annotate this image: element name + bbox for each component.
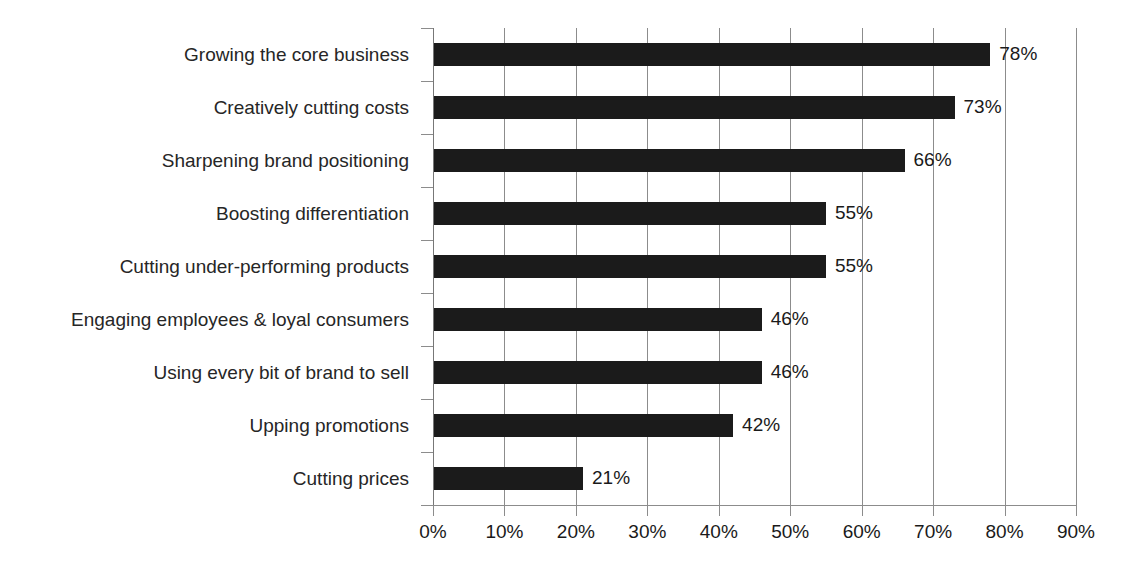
bar-row: 46% xyxy=(433,346,1076,399)
x-axis-tick xyxy=(433,505,434,516)
x-axis-tick-label: 90% xyxy=(1057,519,1095,545)
x-axis-tick xyxy=(504,505,505,516)
bar-value-label: 73% xyxy=(964,93,1002,121)
category-label: Using every bit of brand to sell xyxy=(153,346,421,399)
x-axis-tick-label: 0% xyxy=(419,519,446,545)
bar-value-label: 66% xyxy=(914,146,952,174)
bar-value-label: 21% xyxy=(592,464,630,492)
bar xyxy=(433,43,990,66)
x-axis-tick xyxy=(576,505,577,516)
bar-value-label: 55% xyxy=(835,252,873,280)
bar-value-label: 42% xyxy=(742,411,780,439)
bar-row: 66% xyxy=(433,134,1076,187)
category-label: Engaging employees & loyal consumers xyxy=(71,293,421,346)
bar-row: 55% xyxy=(433,187,1076,240)
x-axis-tick xyxy=(647,505,648,516)
category-axis-labels: Growing the core businessCreatively cutt… xyxy=(0,28,421,505)
y-axis-tick xyxy=(421,240,433,241)
y-axis-tick xyxy=(421,346,433,347)
y-axis-tick xyxy=(421,134,433,135)
bar-row: 42% xyxy=(433,399,1076,452)
x-axis-tick xyxy=(790,505,791,516)
bar-value-label: 55% xyxy=(835,199,873,227)
y-axis-tick xyxy=(421,293,433,294)
x-axis-tick-label: 80% xyxy=(986,519,1024,545)
x-axis-tick xyxy=(933,505,934,516)
bar xyxy=(433,96,955,119)
bar xyxy=(433,202,826,225)
x-axis-tick-label: 10% xyxy=(485,519,523,545)
gridline-90 xyxy=(1076,28,1077,505)
y-axis-tick xyxy=(421,28,433,29)
category-label: Cutting prices xyxy=(293,452,421,505)
bar-value-label: 46% xyxy=(771,358,809,386)
category-label: Cutting under-performing products xyxy=(120,240,421,293)
y-axis-line xyxy=(433,28,434,505)
x-axis-tick xyxy=(1076,505,1077,516)
bar-row: 78% xyxy=(433,28,1076,81)
y-axis-tick xyxy=(421,399,433,400)
bar-value-label: 78% xyxy=(999,40,1037,68)
bar xyxy=(433,414,733,437)
category-label: Upping promotions xyxy=(250,399,421,452)
x-axis-tick-label: 30% xyxy=(628,519,666,545)
y-axis-tick xyxy=(421,187,433,188)
bar-row: 21% xyxy=(433,452,1076,505)
category-label: Boosting differentiation xyxy=(216,187,421,240)
bar-value-label: 46% xyxy=(771,305,809,333)
x-axis-tick-label: 20% xyxy=(557,519,595,545)
plot-area: 78%73%66%55%55%46%46%42%21% xyxy=(433,28,1076,505)
x-axis-tick xyxy=(862,505,863,516)
x-axis-tick xyxy=(1005,505,1006,516)
x-axis-tick-label: 50% xyxy=(771,519,809,545)
category-label: Growing the core business xyxy=(184,28,421,81)
bar-row: 55% xyxy=(433,240,1076,293)
bar xyxy=(433,467,583,490)
y-axis-tick xyxy=(421,452,433,453)
category-label: Sharpening brand positioning xyxy=(162,134,421,187)
bar xyxy=(433,255,826,278)
bar xyxy=(433,361,762,384)
x-axis-line xyxy=(433,505,1076,506)
bar xyxy=(433,149,905,172)
bar-row: 73% xyxy=(433,81,1076,134)
y-axis-tick xyxy=(421,505,433,506)
x-axis-tick-label: 40% xyxy=(700,519,738,545)
x-axis-tick xyxy=(719,505,720,516)
bar-chart: Growing the core businessCreatively cutt… xyxy=(0,0,1143,573)
bar xyxy=(433,308,762,331)
x-axis-tick-label: 70% xyxy=(914,519,952,545)
category-label: Creatively cutting costs xyxy=(214,81,421,134)
x-axis-tick-label: 60% xyxy=(843,519,881,545)
bar-row: 46% xyxy=(433,293,1076,346)
y-axis-tick xyxy=(421,81,433,82)
